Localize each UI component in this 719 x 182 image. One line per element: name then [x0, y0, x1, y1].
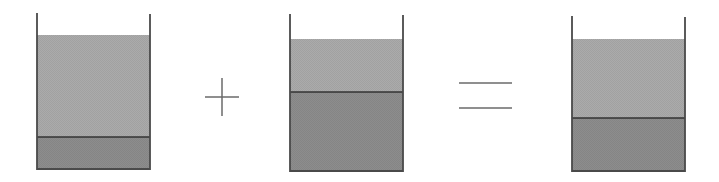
beakers — [37, 13, 685, 171]
beaker-c — [572, 16, 685, 171]
plus-sign — [205, 78, 239, 116]
upper-layer-texture — [37, 35, 150, 137]
lower-layer-texture — [37, 137, 150, 169]
beaker-a — [37, 13, 150, 169]
equals-sign — [459, 83, 512, 108]
beaker-equation-diagram — [0, 0, 719, 182]
lower-layer-texture — [572, 118, 685, 171]
upper-layer-texture — [290, 39, 403, 92]
beaker-b — [290, 14, 403, 171]
lower-layer-texture — [290, 92, 403, 171]
upper-layer-texture — [572, 39, 685, 118]
